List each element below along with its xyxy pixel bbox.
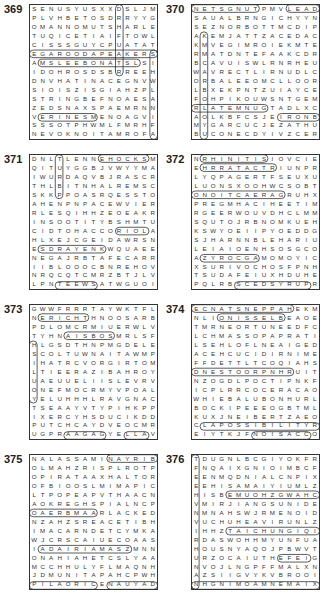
grid-letter: C <box>200 385 208 394</box>
grid-letter: P <box>285 376 293 385</box>
grid-letter: C <box>140 491 148 500</box>
grid-letter: G <box>243 464 251 473</box>
grid-letter: O <box>226 23 234 32</box>
grid-letter: A <box>132 535 140 544</box>
grid-letter: H <box>123 368 131 377</box>
grid-letter: R <box>217 280 225 289</box>
grid-letter: L <box>47 455 55 464</box>
grid-letter: S <box>98 68 106 77</box>
grid-letter: S <box>55 209 63 218</box>
grid-letter: A <box>106 394 114 403</box>
grid-letter: S <box>89 500 97 509</box>
grid-letter: M <box>311 305 319 314</box>
grid-letter: I <box>106 350 114 359</box>
grid-letter: T <box>192 455 200 464</box>
grid-letter: S <box>140 155 148 164</box>
grid-letter: F <box>268 562 276 571</box>
grid-letter: N <box>209 473 217 482</box>
grid-letter: R <box>285 332 293 341</box>
grid-letter: L <box>106 509 114 518</box>
grid-letter: I <box>30 262 38 271</box>
grid-letter: R <box>123 68 131 77</box>
grid-letter: N <box>30 314 38 323</box>
grid-letter: B <box>260 421 268 430</box>
grid-letter: O <box>192 76 200 85</box>
grid-letter: I <box>268 455 276 464</box>
grid-letter: A <box>81 509 89 518</box>
grid-letter: Y <box>200 121 208 130</box>
grid-letter: A <box>89 544 97 553</box>
grid-letter: X <box>98 473 106 482</box>
grid-letter: Q <box>64 209 72 218</box>
grid-letter: I <box>47 473 55 482</box>
grid-letter: Y <box>294 14 302 23</box>
grid-letter: R <box>123 359 131 368</box>
grid-letter: I <box>192 385 200 394</box>
grid-letter: Y <box>38 332 46 341</box>
grid-letter: K <box>123 50 131 59</box>
grid-letter: W <box>115 280 123 289</box>
grid-letter: N <box>98 314 106 323</box>
grid-letter: E <box>115 103 123 112</box>
grid-letter: Y <box>89 562 97 571</box>
grid-letter: I <box>251 473 259 482</box>
grid-letter: N <box>285 350 293 359</box>
grid-letter: O <box>81 130 89 139</box>
grid-letter: G <box>234 173 242 182</box>
grid-letter: P <box>98 500 106 509</box>
grid-letter: H <box>260 182 268 191</box>
grid-letter: V <box>234 262 242 271</box>
grid-letter: S <box>311 359 319 368</box>
grid-letter: R <box>209 323 217 332</box>
grid-letter: E <box>38 130 46 139</box>
grid-letter: O <box>294 182 302 191</box>
grid-letter: N <box>268 580 276 589</box>
grid-letter: D <box>294 32 302 41</box>
grid-letter: R <box>72 368 80 377</box>
grid-letter: C <box>277 32 285 41</box>
grid-letter: I <box>89 376 97 385</box>
grid-letter: I <box>123 226 131 235</box>
grid-letter: E <box>140 509 148 518</box>
grid-letter: N <box>192 314 200 323</box>
grid-letter: A <box>123 350 131 359</box>
grid-letter: T <box>81 571 89 580</box>
grid-letter: S <box>30 350 38 359</box>
grid-letter: U <box>294 173 302 182</box>
grid-letter: E <box>285 32 293 41</box>
grid-letter: I <box>81 76 89 85</box>
grid-letter: O <box>72 23 80 32</box>
grid-letter: Y <box>302 14 310 23</box>
grid-letter: R <box>200 155 208 164</box>
grid-letter: E <box>47 385 55 394</box>
grid-letter: W <box>140 32 148 41</box>
grid-letter: N <box>192 376 200 385</box>
grid-letter: E <box>72 280 80 289</box>
grid-letter: B <box>106 368 114 377</box>
grid-letter: C <box>294 385 302 394</box>
grid-letter: E <box>200 244 208 253</box>
grid-letter: R <box>243 323 251 332</box>
grid-letter: A <box>294 412 302 421</box>
grid-letter: A <box>89 50 97 59</box>
grid-letter: C <box>251 164 259 173</box>
grid-letter: E <box>55 235 63 244</box>
grid-letter: E <box>217 394 225 403</box>
grid-letter: R <box>251 41 259 50</box>
grid-letter: E <box>285 314 293 323</box>
grid-letter: D <box>149 580 157 589</box>
grid-letter: H <box>64 464 72 473</box>
grid-letter: B <box>260 394 268 403</box>
grid-letter: O <box>72 385 80 394</box>
grid-letter: R <box>311 50 319 59</box>
grid-letter: E <box>311 314 319 323</box>
grid-letter: O <box>140 280 148 289</box>
grid-letter: B <box>47 482 55 491</box>
grid-letter: O <box>251 385 259 394</box>
grid-letter: A <box>217 244 225 253</box>
grid-letter: R <box>277 385 285 394</box>
grid-letter: G <box>98 430 106 439</box>
grid-letter: T <box>72 76 80 85</box>
grid-letter: I <box>106 85 114 94</box>
grid-letter: E <box>38 112 46 121</box>
